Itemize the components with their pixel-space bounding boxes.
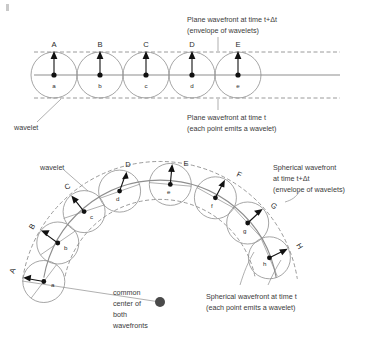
source-point-dot-d [189, 72, 194, 77]
source-point-dot-a [51, 72, 56, 77]
envelope-label-H-lower: H [294, 242, 305, 251]
label-common-center-line1: common [113, 288, 141, 297]
caption-plane-t-plus-dt-line1: Plane wavefront at time t+Δt [187, 15, 277, 24]
ray-arrow-b [97, 51, 104, 75]
leader-line-wavelet-upper [37, 99, 61, 122]
ray-arrow-e [235, 51, 242, 75]
envelope-label-G-lower: G [269, 201, 279, 212]
caption-spherical-t-line2: (each point emits a wavelet) [206, 303, 296, 312]
ray-arrow-h-lower [269, 249, 287, 258]
envelope-label-B: B [97, 40, 102, 49]
source-label-d-lower: d [116, 195, 120, 202]
source-label-f-lower: f [211, 202, 213, 209]
spherical-wavefront-t-arc [44, 180, 276, 277]
source-label-g-lower: g [243, 227, 247, 234]
caption-spherical-t-plus-dt-line3: (envelope of wavelets) [273, 185, 345, 194]
leader-line-spherical-t [240, 252, 254, 285]
ray-arrow-c [143, 51, 150, 75]
caption-plane-t-line1: Plane wavefront at time t [187, 113, 266, 122]
wavelet-group-a: a A [7, 261, 64, 303]
source-point-dot-h-lower [267, 255, 272, 260]
caption-plane-t-line2: (each point emits a wavelet) [187, 124, 277, 133]
source-label-c: c [144, 82, 147, 89]
label-common-center-line2: center of [113, 299, 141, 308]
caption-spherical-t-line1: Spherical wavefront at time t [206, 292, 297, 301]
ray-arrow-a-lower [23, 275, 44, 282]
huygens-principle-figure: a b c d e A B C D E Plane wavefront at t… [0, 0, 369, 344]
source-point-dot-c [143, 72, 148, 77]
wavelet-group-d: d D [99, 160, 141, 212]
source-point-dot-f-lower [213, 195, 218, 200]
source-label-e-lower: e [167, 188, 171, 195]
source-label-b-lower: b [64, 244, 68, 251]
envelope-label-E-lower: E [183, 159, 188, 168]
ray-arrow-d-lower [120, 172, 129, 191]
source-label-b: b [98, 82, 102, 89]
spherical-wavefront-inner-tangent-arc [65, 199, 255, 276]
ray-arrow-a [51, 51, 58, 75]
envelope-label-A-lower: A [7, 266, 18, 275]
source-point-dot-c-lower [82, 209, 87, 214]
caption-spherical-t-plus-dt-line1: Spherical wavefront [273, 163, 336, 172]
envelope-label-D-lower: D [125, 160, 131, 169]
envelope-label-B-lower: B [27, 222, 37, 231]
wavelet-group-f: f F [194, 170, 243, 219]
source-point-dot-d-lower [117, 189, 122, 194]
source-point-dot-e-lower [168, 182, 173, 187]
label-common-center-line4: wavefronts [112, 321, 148, 330]
caption-spherical-t-plus-dt-line2: at time t+Δt [273, 174, 310, 183]
upper-panel-plane-wavefront: a b c d e A B C D E Plane wavefront at t… [13, 15, 340, 133]
ray-arrow-f-lower [215, 180, 225, 198]
label-common-center-line3: both [113, 310, 127, 319]
source-label-e: e [236, 82, 240, 89]
envelope-label-E: E [235, 40, 240, 49]
source-point-dot-a-lower [41, 279, 46, 284]
leader-line-spherical-t-secondary [268, 260, 281, 285]
envelope-label-D: D [189, 40, 195, 49]
caption-plane-t-plus-dt-line2: (envelope of wavelets) [187, 26, 259, 35]
source-label-h-lower: h [263, 260, 267, 267]
ray-arrow-b-lower [41, 230, 58, 243]
label-wavelet-upper: wavelet [13, 123, 38, 132]
lower-panel-spherical-wavefront: a A b B c C [7, 159, 344, 330]
ray-arrow-d [189, 51, 196, 75]
source-point-dot-g-lower [245, 221, 250, 226]
source-point-dot-b [97, 72, 102, 77]
ray-arrow-c-lower [71, 195, 84, 211]
common-center-dot [155, 297, 165, 307]
source-label-d: d [190, 82, 194, 89]
label-wavelet-lower: wavelet [39, 163, 64, 172]
ray-arrow-g-lower [248, 209, 263, 223]
envelope-label-F-lower: F [235, 170, 243, 180]
source-point-dot-b-lower [55, 241, 60, 246]
corner-mark [6, 4, 9, 11]
spherical-wavefront-t-plus-dt-arc [23, 161, 298, 278]
source-label-a: a [52, 82, 56, 89]
source-label-c-lower: c [90, 213, 93, 220]
envelope-label-C: C [143, 40, 149, 49]
source-label-a-lower: a [51, 281, 55, 288]
source-point-dot-e [235, 72, 240, 77]
envelope-label-A: A [51, 40, 57, 49]
envelope-label-C-lower: C [63, 181, 72, 192]
